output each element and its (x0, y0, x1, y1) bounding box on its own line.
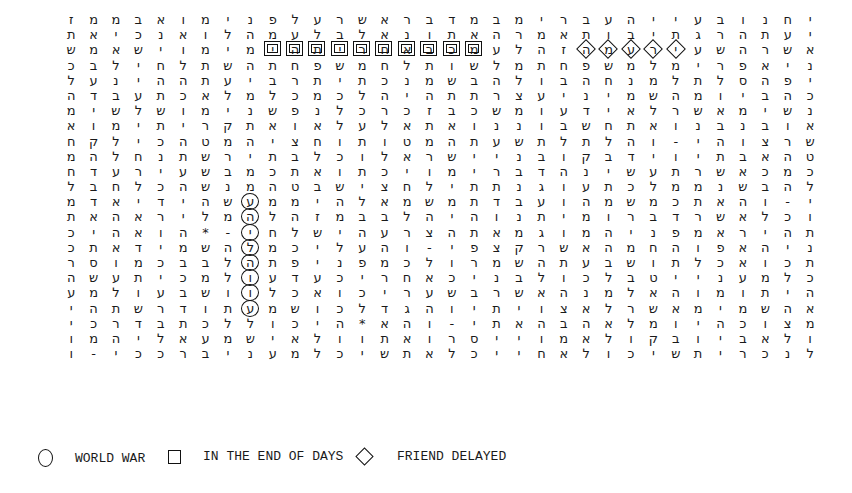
grid-letter: ו (620, 331, 642, 346)
grid-letter: ר (463, 255, 485, 270)
grid-letter: ת (194, 58, 216, 73)
grid-letter: מ (82, 331, 104, 346)
grid-letter: י (396, 88, 418, 103)
grid-letter: ז (306, 209, 328, 224)
grid-letter: י (687, 270, 709, 285)
grid-letter: ה (217, 240, 239, 255)
grid-row: השעתיכמלועדעכירחאכינבלוכלבטיינעמלכ (60, 270, 822, 285)
grid-letter: ל (620, 316, 642, 331)
grid-letter: ו (172, 12, 194, 27)
grid-letter: ה (553, 285, 575, 300)
grid-letter: י (150, 270, 172, 285)
grid-letter: א (172, 27, 194, 42)
square-icon (168, 450, 181, 464)
grid-letter: ב (150, 316, 172, 331)
grid-letter: ת (418, 118, 440, 133)
grid-letter: ע (239, 301, 261, 316)
grid-letter: ל (620, 285, 642, 300)
grid-letter: ל (351, 194, 373, 209)
grid-letter: א (150, 12, 172, 27)
grid-letter: ע (687, 42, 709, 57)
grid-letter: א (709, 225, 731, 240)
grid-letter: י (485, 331, 507, 346)
grid-row: תאיכנאולהמעלבלאנותאהרמאתוביתגרהתעי (60, 27, 822, 42)
grid-letter: י (709, 331, 731, 346)
grid-letter: א (642, 285, 664, 300)
grid-letter: ת (105, 301, 127, 316)
grid-letter: ש (665, 346, 687, 361)
grid-letter: ד (150, 194, 172, 209)
grid-letter: ת (530, 58, 552, 73)
grid-row: ומהילאעמשיאלוותאורסייומאלוקבויבאלו (60, 331, 822, 346)
legend-label: WORLD WAR (75, 451, 145, 466)
grid-letter: ש (82, 270, 104, 285)
grid-letter: ש (127, 42, 149, 57)
grid-letter: פ (351, 255, 373, 270)
grid-letter: ה (553, 164, 575, 179)
grid-letter: ע (127, 88, 149, 103)
grid-letter: ר (284, 73, 306, 88)
grid-letter: י (239, 149, 261, 164)
grid-letter: ו (351, 149, 373, 164)
grid-letter: נ (799, 240, 821, 255)
grid-letter: ר (329, 12, 351, 27)
grid-letter: נ (709, 270, 731, 285)
grid-letter: א (732, 209, 754, 224)
grid-letter: מ (665, 58, 687, 73)
grid-letter: י (127, 331, 149, 346)
grid-letter: י (127, 73, 149, 88)
grid-letter: ב (508, 270, 530, 285)
grid-letter: מ (396, 194, 418, 209)
grid-letter: ו (642, 255, 664, 270)
grid-letter: נ (575, 164, 597, 179)
grid-letter: ל (217, 88, 239, 103)
legend-label: IN THE END OF DAYS (203, 449, 343, 464)
grid-letter: ת (150, 88, 172, 103)
grid-letter: ל (329, 103, 351, 118)
grid-letter: ת (284, 164, 306, 179)
grid-letter: ש (329, 179, 351, 194)
grid-letter: ת (60, 27, 82, 42)
grid-letter: ש (597, 58, 619, 73)
grid-letter: כ (351, 103, 373, 118)
grid-letter: ס (732, 73, 754, 88)
grid-letter: ב (508, 194, 530, 209)
grid-letter: ו (530, 103, 552, 118)
grid-letter: ב (553, 118, 575, 133)
grid-letter: ל (194, 209, 216, 224)
grid-letter: מ (194, 42, 216, 57)
grid-letter: ל (597, 331, 619, 346)
grid-letter: מ (485, 255, 507, 270)
grid-letter: נ (732, 118, 754, 133)
grid-letter: י (82, 225, 104, 240)
grid-letter: ב (284, 149, 306, 164)
grid-letter: מ (508, 12, 530, 27)
grid-letter: י (262, 331, 284, 346)
grid-letter: ה (194, 194, 216, 209)
grid-letter: ה (284, 209, 306, 224)
grid-letter: ש (217, 58, 239, 73)
grid-letter: כ (329, 270, 351, 285)
grid-letter: ח (373, 42, 395, 57)
grid-letter: י (463, 316, 485, 331)
grid-letter: ה (172, 225, 194, 240)
grid-letter: ר (530, 240, 552, 255)
grid-letter: ל (306, 346, 328, 361)
grid-letter: ח (642, 240, 664, 255)
grid-row: עמלועבשוולכאוכירעשברשאהנמלאהומותיה (60, 285, 822, 300)
grid-letter: נ (485, 118, 507, 133)
grid-letter: מ (575, 209, 597, 224)
grid-letter: א (553, 27, 575, 42)
grid-letter: ב (508, 164, 530, 179)
grid-letter: * (351, 316, 373, 331)
grid-letter: א (105, 42, 127, 57)
grid-letter: מ (508, 58, 530, 73)
grid-letter: כ (441, 270, 463, 285)
grid-letter: צ (418, 225, 440, 240)
grid-row: הדבעתכאלמלכמכלהיהתתרצעינימשהמויבהכ (60, 88, 822, 103)
grid-letter: ש (441, 285, 463, 300)
grid-letter: - (82, 346, 104, 361)
grid-letter: ע (777, 27, 799, 42)
grid-letter: כ (665, 194, 687, 209)
grid-letter: א (262, 118, 284, 133)
